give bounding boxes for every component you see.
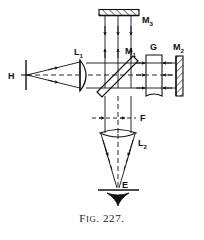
label-mirror-m1: M1 bbox=[125, 46, 137, 58]
mirror-m3-surface bbox=[99, 10, 139, 16]
arrow-converge-left bbox=[103, 140, 108, 156]
plate-g-group bbox=[146, 55, 162, 96]
caption-smallcaps: IG bbox=[86, 214, 96, 224]
converging-cone-rays bbox=[101, 134, 135, 188]
label-lens-l2: L2 bbox=[138, 138, 148, 150]
eye-symbol bbox=[107, 193, 129, 206]
lens-l1-body bbox=[80, 60, 86, 91]
caption-dot: . bbox=[96, 212, 99, 224]
label-lens-l1: L1 bbox=[74, 47, 84, 59]
mirror-m2-surface bbox=[176, 56, 183, 96]
mirror-m3-group bbox=[99, 10, 139, 16]
label-plate-g: G bbox=[150, 42, 157, 52]
plate-g-body bbox=[146, 55, 162, 96]
figure-container: H L1 M3 M1 G M2 F L2 E FIG. 227. bbox=[0, 0, 204, 240]
mirror-m2-group bbox=[176, 56, 183, 96]
diverging-cone-rays bbox=[27, 62, 80, 88]
beam-splitter-m1-plate bbox=[97, 56, 138, 97]
label-source-h: H bbox=[8, 71, 15, 81]
down-beam-rays bbox=[105, 96, 131, 133]
arrow-cone-upper bbox=[48, 67, 58, 69]
caption-number: 227. bbox=[103, 212, 125, 224]
lens-l1-group bbox=[80, 60, 86, 91]
optics-diagram: H L1 M3 M1 G M2 F L2 E bbox=[0, 0, 204, 240]
diagram-labels: H L1 M3 M1 G M2 F L2 E bbox=[8, 15, 185, 190]
beam-splitter-m1-group bbox=[97, 56, 138, 97]
horizontal-beam-arrowheads bbox=[136, 63, 172, 88]
figure-caption: FIG. 227. bbox=[0, 212, 204, 224]
eye-e-group bbox=[98, 190, 139, 206]
arrow-converge-right bbox=[128, 140, 133, 156]
label-mirror-m3: M3 bbox=[142, 15, 154, 27]
label-mirror-m2: M2 bbox=[173, 42, 185, 54]
label-eye-e: E bbox=[122, 180, 128, 190]
label-fringe-plane-f: F bbox=[140, 113, 146, 123]
arrow-cone-lower bbox=[48, 80, 58, 82]
vertical-beam-arrowheads-down bbox=[105, 26, 131, 35]
